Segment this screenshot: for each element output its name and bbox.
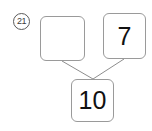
total-value: 10 [79,88,107,113]
connector-left-to-total [62,61,93,79]
total-box[interactable]: 10 [71,79,114,122]
addend-box[interactable]: 7 [103,13,146,59]
empty-addend-box[interactable] [40,16,85,61]
worksheet-item: 21 7 10 [0,0,152,131]
connector-right-to-total [93,59,124,79]
addend-value: 7 [118,24,132,49]
